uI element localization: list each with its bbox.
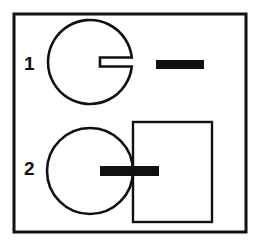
row-1-black-bar: [156, 60, 204, 69]
row-2-label: 2: [24, 159, 35, 178]
diagram-canvas: [0, 0, 263, 243]
row-2-black-bar: [100, 166, 159, 176]
figure-container: 1 2: [0, 0, 263, 243]
figure-background: [0, 0, 263, 243]
row-1-label: 1: [24, 54, 35, 73]
